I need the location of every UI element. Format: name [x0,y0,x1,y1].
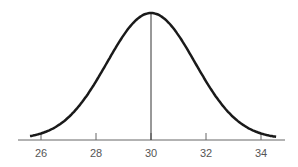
x-tick-label: 28 [90,147,102,159]
x-tick-label: 26 [35,147,47,159]
x-tick-label: 34 [255,147,267,159]
normal-distribution-chart: 2628303234 [0,0,298,167]
normal-curve [30,13,276,137]
x-tick-label: 30 [145,147,157,159]
x-tick-label: 32 [200,147,212,159]
